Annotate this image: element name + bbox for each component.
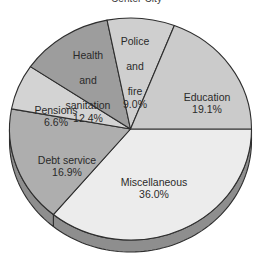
pie-slices-group (9, 18, 251, 240)
pie-chart: Center City Police and fire 9.0% Educati… (0, 0, 273, 270)
pie-chart-canvas (0, 0, 273, 270)
